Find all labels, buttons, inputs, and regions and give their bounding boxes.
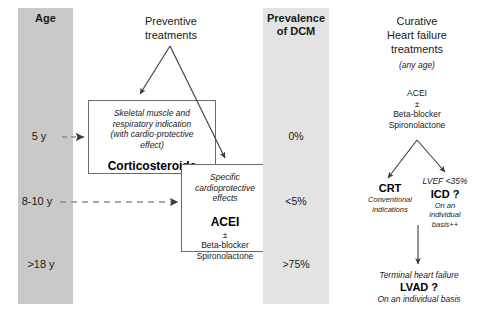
preventive-header-line1: Preventive (125, 14, 217, 28)
prevalence-value-2: >75% (263, 258, 329, 271)
preventive-header-line2: treatments (125, 28, 217, 42)
cardioprotective-indication-line3: effects (182, 193, 268, 204)
icd-note-line3: basis++ (413, 220, 477, 230)
curative-first-drug: ACEI (363, 88, 471, 99)
lvad-stage: Terminal heart failure (357, 270, 481, 281)
curative-column-header: Curative Heart failure treatments (363, 14, 471, 56)
curative-first-plus-minus: ± (363, 99, 471, 110)
cardioprotective-indication-line2: cardioprotective (182, 183, 268, 194)
cardioprotective-box: Specific cardioprotective effects ACEI ±… (181, 164, 269, 252)
cardioprotective-adjunct-line2: Spironolactone (182, 251, 268, 262)
corticosteroids-indication: Skeletal muscle and respiratory indicati… (89, 108, 215, 150)
cardioprotective-plus-minus: ± (182, 230, 268, 241)
curative-first-line-treatment: ACEI ± Beta-blocker Spironolactone (363, 88, 471, 130)
corticosteroids-indication-line1: Skeletal muscle and (89, 108, 215, 119)
age-label-over-18y: >18 y (16, 258, 66, 271)
prevalence-value-0: 0% (263, 130, 329, 143)
curative-terminal-lvad: Terminal heart failure LVAD ? On an indi… (357, 270, 481, 304)
cardioprotective-indication: Specific cardioprotective effects (182, 172, 268, 204)
icd-criterion: LVEF <35% (413, 176, 477, 187)
prevalence-value-1: <5% (263, 195, 329, 208)
curative-branch-icd: LVEF <35% ICD ? On an individual basis++ (413, 176, 477, 229)
corticosteroids-indication-line2: respiratory indication (89, 119, 215, 130)
icd-title: ICD ? (413, 188, 477, 201)
prevalence-column-header: Prevalence of DCM (263, 12, 329, 38)
arrow-curative-to-icd (417, 140, 445, 172)
cardioprotective-drug-label: ACEI (182, 215, 268, 229)
curative-header-line1: Curative (363, 14, 471, 28)
age-label-8-10y: 8-10 y (12, 195, 62, 208)
corticosteroids-box: Skeletal muscle and respiratory indicati… (88, 100, 216, 174)
age-column-header: Age (18, 12, 73, 25)
prevalence-header-line2: of DCM (263, 25, 329, 38)
prevalence-header-line1: Prevalence (263, 12, 329, 25)
cardioprotective-indication-line1: Specific (182, 172, 268, 183)
arrow-preventive-to-corticosteroids (140, 46, 170, 94)
curative-header-note: (any age) (363, 60, 471, 71)
curative-header-line2: Heart failure (363, 28, 471, 42)
cardioprotective-adjunct-line1: Beta-blocker (182, 240, 268, 251)
icd-note-line2: individual (413, 210, 477, 220)
figure-canvas: Age 5 y 8-10 y >18 y Preventive treatmen… (0, 0, 482, 319)
corticosteroids-indication-line4: effect) (89, 140, 215, 151)
lvad-note: On an individual basis (357, 294, 481, 305)
arrow-curative-to-crt (388, 140, 417, 178)
curative-first-adjunct-line1: Beta-blocker (363, 109, 471, 120)
curative-first-adjunct-line2: Spironolactone (363, 120, 471, 131)
corticosteroids-indication-line3: (with cardio-protective (89, 129, 215, 140)
preventive-treatments-header: Preventive treatments (125, 14, 217, 42)
lvad-title: LVAD ? (357, 281, 481, 294)
icd-note-line1: On an (413, 201, 477, 211)
age-label-5y: 5 y (18, 130, 60, 143)
curative-header-line3: treatments (363, 42, 471, 56)
